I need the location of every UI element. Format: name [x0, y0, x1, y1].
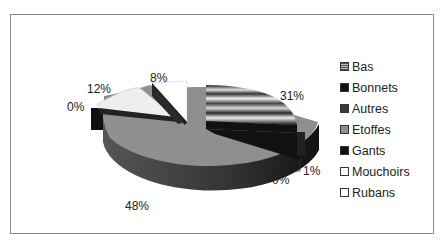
legend-swatch-mouchoirs: [340, 167, 349, 176]
slice-autres[interactable]: [297, 132, 305, 156]
legend-swatch-etoffes: [340, 125, 349, 134]
legend-item-mouchoirs: Mouchoirs: [340, 161, 410, 182]
label-autres: 0%: [272, 173, 289, 187]
legend-item-autres: Autres: [340, 98, 410, 119]
legend-item-etoffes: Etoffes: [340, 119, 410, 140]
label-rubans: 8%: [150, 71, 167, 85]
legend-swatch-gants: [340, 146, 349, 155]
legend-swatch-autres: [340, 104, 349, 113]
legend-item-bas: Bas: [340, 56, 410, 77]
label-bonnets: 1%: [303, 164, 320, 178]
label-etoffes: 48%: [125, 199, 149, 213]
label-bas: 31%: [280, 89, 304, 103]
legend-item-rubans: Rubans: [340, 182, 410, 203]
legend-item-bonnets: Bonnets: [340, 77, 410, 98]
legend-swatch-bas: [340, 62, 349, 71]
legend: Bas Bonnets Autres Etoffes Gants Mouchoi…: [340, 56, 410, 203]
legend-swatch-bonnets: [340, 83, 349, 92]
legend-item-gants: Gants: [340, 140, 410, 161]
label-gants: 0%: [67, 100, 84, 114]
label-mouchoirs: 12%: [87, 82, 111, 96]
legend-swatch-rubans: [340, 188, 349, 197]
